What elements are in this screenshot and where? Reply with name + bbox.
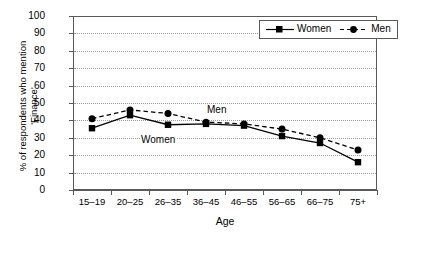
legend-item-women: Women	[266, 23, 331, 35]
y-tick-label: 90	[15, 28, 45, 38]
legend-label-women: Women	[297, 23, 331, 35]
y-tick-mark	[69, 33, 73, 34]
grid-line	[74, 86, 376, 87]
y-tick-mark	[69, 103, 73, 104]
legend-key-women-icon	[266, 24, 294, 35]
grid-line	[74, 155, 376, 156]
y-tick-label: 80	[15, 46, 45, 56]
y-tick-mark	[69, 51, 73, 52]
x-tick-mark	[377, 190, 378, 195]
x-tick-mark	[301, 190, 302, 195]
annotation-men: Men	[206, 104, 227, 115]
x-tick-mark	[111, 190, 112, 195]
x-tick-mark	[73, 190, 74, 195]
grid-line	[74, 120, 376, 121]
legend-label-men: Men	[371, 23, 390, 35]
y-tick-mark	[69, 155, 73, 156]
y-tick-label: 40	[15, 115, 45, 125]
chart-container: % of respondents who mention 'Finance' 0…	[0, 0, 426, 253]
grid-line	[74, 51, 376, 52]
legend-key-men-icon	[340, 24, 368, 35]
y-tick-label: 0	[15, 185, 45, 195]
y-tick-mark	[69, 68, 73, 69]
y-axis-line	[73, 16, 74, 190]
x-axis-title: Age	[73, 215, 377, 227]
chart-legend: Women Men	[259, 20, 398, 39]
x-tick-mark	[263, 190, 264, 195]
y-tick-label: 50	[15, 98, 45, 108]
y-tick-mark	[69, 138, 73, 139]
legend-item-men: Men	[340, 23, 390, 35]
y-tick-label: 60	[15, 81, 45, 91]
x-tick-mark	[149, 190, 150, 195]
y-tick-mark	[69, 173, 73, 174]
annotation-women: Women	[140, 134, 176, 145]
y-tick-mark	[69, 120, 73, 121]
x-tick-mark	[187, 190, 188, 195]
grid-line	[74, 138, 376, 139]
y-tick-label: 10	[15, 168, 45, 178]
x-tick-mark	[225, 190, 226, 195]
grid-line	[74, 173, 376, 174]
y-tick-label: 20	[15, 150, 45, 160]
x-tick-label: 75+	[335, 196, 381, 207]
y-tick-label: 30	[15, 133, 45, 143]
x-tick-mark	[339, 190, 340, 195]
y-tick-mark	[69, 16, 73, 17]
grid-line	[74, 68, 376, 69]
plot-area	[73, 16, 377, 190]
y-tick-mark	[69, 86, 73, 87]
y-tick-label: 70	[15, 63, 45, 73]
y-tick-label: 100	[15, 11, 45, 21]
